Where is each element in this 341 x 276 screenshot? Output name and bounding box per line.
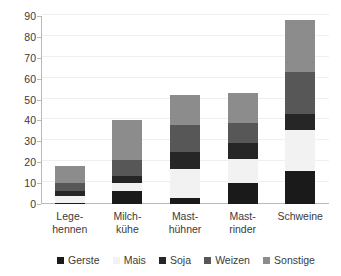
legend-item-soja[interactable]: Soja (159, 255, 191, 266)
bar-segment-mais[interactable] (170, 169, 200, 198)
legend-item-mais[interactable]: Mais (113, 255, 146, 266)
y-tick-mark-0 (37, 204, 41, 205)
legend-swatch-icon (113, 257, 120, 264)
bar-segment-weizen[interactable] (112, 160, 142, 176)
y-tick-label: 80 (10, 32, 36, 42)
bar-segment-soja[interactable] (170, 152, 200, 169)
bar-segment-gerste[interactable] (228, 183, 258, 204)
legend-label: Sonstige (274, 255, 315, 266)
gridline-90 (42, 14, 329, 15)
bar-segment-mais[interactable] (112, 183, 142, 191)
bar-segment-weizen[interactable] (228, 123, 258, 144)
bar-segment-weizen[interactable] (285, 72, 315, 114)
bar-group[interactable] (156, 16, 214, 204)
legend-item-weizen[interactable]: Weizen (204, 255, 250, 266)
bar-segment-soja[interactable] (228, 143, 258, 159)
bar-segment-sonstige[interactable] (112, 120, 142, 160)
x-axis-label-line: Schweine (265, 210, 335, 223)
bar-segment-mais[interactable] (285, 130, 315, 171)
legend-label: Gerste (68, 255, 100, 266)
bar-segment-gerste[interactable] (285, 171, 315, 204)
y-tick-label: 10 (10, 178, 36, 188)
legend-label: Soja (170, 255, 191, 266)
bar-segment-gerste[interactable] (112, 191, 142, 204)
y-tick-label: 0 (10, 199, 36, 209)
legend-swatch-icon (57, 257, 64, 264)
bars-layer (41, 16, 329, 204)
x-axis-label: Schweine (265, 210, 335, 223)
y-tick-label: 90 (10, 11, 36, 21)
bar-segment-sonstige[interactable] (228, 93, 258, 122)
y-tick-label: 60 (10, 74, 36, 84)
bar-segment-soja[interactable] (112, 176, 142, 183)
y-tick-label: 50 (10, 95, 36, 105)
bar-group[interactable] (271, 16, 329, 204)
y-tick-label: 20 (10, 157, 36, 167)
y-tick-label: 30 (10, 136, 36, 146)
legend-item-gerste[interactable]: Gerste (57, 255, 100, 266)
legend-label: Mais (124, 255, 146, 266)
bar-segment-sonstige[interactable] (170, 95, 200, 124)
bar-segment-gerste[interactable] (170, 198, 200, 204)
bar-segment-soja[interactable] (285, 114, 315, 130)
y-tick-label: 40 (10, 115, 36, 125)
bar-group[interactable] (41, 16, 99, 204)
legend-swatch-icon (204, 257, 211, 264)
bar-segment-weizen[interactable] (170, 125, 200, 152)
legend-swatch-icon (159, 257, 166, 264)
bar-segment-soja[interactable] (55, 191, 85, 195)
x-axis-label-line: rinder (208, 223, 278, 236)
bar-segment-mais[interactable] (55, 196, 85, 203)
bar-segment-weizen[interactable] (55, 183, 85, 191)
bar-group[interactable] (214, 16, 272, 204)
bar-segment-sonstige[interactable] (285, 20, 315, 72)
legend-item-sonstige[interactable]: Sonstige (263, 255, 315, 266)
stacked-bar-chart: 0102030405060708090 Lege-hennenMilch-küh… (0, 0, 341, 276)
bar-group[interactable] (99, 16, 157, 204)
bar-segment-gerste[interactable] (55, 203, 85, 204)
legend-label: Weizen (215, 255, 250, 266)
legend-swatch-icon (263, 257, 270, 264)
chart-legend: GersteMaisSojaWeizenSonstige (41, 252, 329, 268)
bar-segment-mais[interactable] (228, 159, 258, 183)
bar-segment-sonstige[interactable] (55, 166, 85, 183)
y-tick-label: 70 (10, 53, 36, 63)
